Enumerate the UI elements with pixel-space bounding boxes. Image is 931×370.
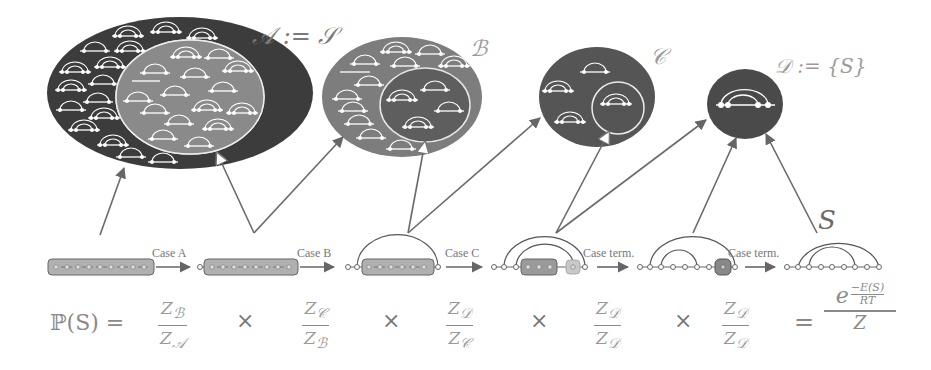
times-4: × [674, 308, 692, 333]
probability-formula: ℙ(S) = Zℬ Z𝒜 × Z𝒞 Zℬ × Z𝒟 Z𝒞 × Z𝒟 Z𝒟 × Z… [0, 296, 931, 366]
fraction-3: Z𝒟 Z𝒞 [446, 298, 473, 354]
final-structure-label: S [818, 205, 836, 235]
frac-2-den: Z [304, 328, 316, 348]
frac-5-den-sub: 𝒟 [736, 336, 747, 352]
partition-function: Z [854, 312, 867, 334]
exp-numerator: −E(S) [851, 282, 884, 294]
frac-4-den-sub: 𝒟 [608, 336, 619, 352]
strand-2 [198, 259, 299, 275]
set-a-label: 𝒜 := 𝒮 [252, 22, 337, 50]
set-c-label: 𝒞 [650, 44, 666, 69]
strand-4 [492, 237, 588, 275]
frac-3-den: Z [449, 328, 461, 348]
equals-sign: = [794, 308, 814, 336]
case-a-label: Case A [152, 246, 186, 261]
case-b-label: Case B [297, 246, 331, 261]
strand-5 [638, 237, 738, 275]
frac-1-num: Z [161, 298, 173, 318]
frac-1-den: Z [160, 328, 172, 348]
set-b-ellipse [322, 37, 482, 157]
frac-1-num-sub: ℬ [173, 305, 184, 321]
case-term-label-1: Case term. [583, 246, 634, 261]
formula-lhs: ℙ(S) = [50, 310, 124, 335]
frac-5-den: Z [724, 328, 736, 348]
strand-1 [48, 259, 154, 275]
fraction-4: Z𝒟 Z𝒟 [594, 298, 621, 354]
boltzmann-fraction: e −E(S) RT Z [824, 282, 896, 334]
frac-2-den-sub: ℬ [316, 336, 327, 352]
case-term-label-2: Case term. [728, 246, 779, 261]
fraction-5: Z𝒟 Z𝒟 [722, 298, 749, 354]
frac-3-num: Z [448, 298, 460, 318]
frac-3-num-sub: 𝒟 [460, 305, 471, 321]
fraction-2: Z𝒞 Zℬ [302, 298, 329, 354]
times-2: × [382, 308, 400, 333]
set-d-label: 𝒟 := {S} [775, 54, 866, 78]
strand-final-s [785, 243, 882, 269]
frac-5-num: Z [724, 298, 736, 318]
frac-2-num-sub: 𝒞 [316, 305, 326, 321]
set-b-label: ℬ [470, 36, 487, 61]
frac-3-den-sub: 𝒞 [460, 336, 470, 352]
fraction-1: Zℬ Z𝒜 [158, 298, 187, 354]
frac-4-num-sub: 𝒟 [608, 305, 619, 321]
exp-base: e [836, 285, 849, 307]
frac-4-num: Z [596, 298, 608, 318]
case-c-label: Case C [445, 246, 479, 261]
frac-5-num-sub: 𝒟 [736, 305, 747, 321]
times-1: × [236, 308, 254, 333]
strand-3 [346, 235, 441, 275]
times-3: × [530, 308, 548, 333]
frac-1-den-sub: 𝒜 [172, 336, 185, 352]
frac-2-num: Z [305, 298, 317, 318]
set-d-ellipse [707, 69, 783, 139]
exp-denominator: RT [860, 295, 875, 307]
frac-4-den: Z [596, 328, 608, 348]
set-c-ellipse [539, 47, 655, 147]
